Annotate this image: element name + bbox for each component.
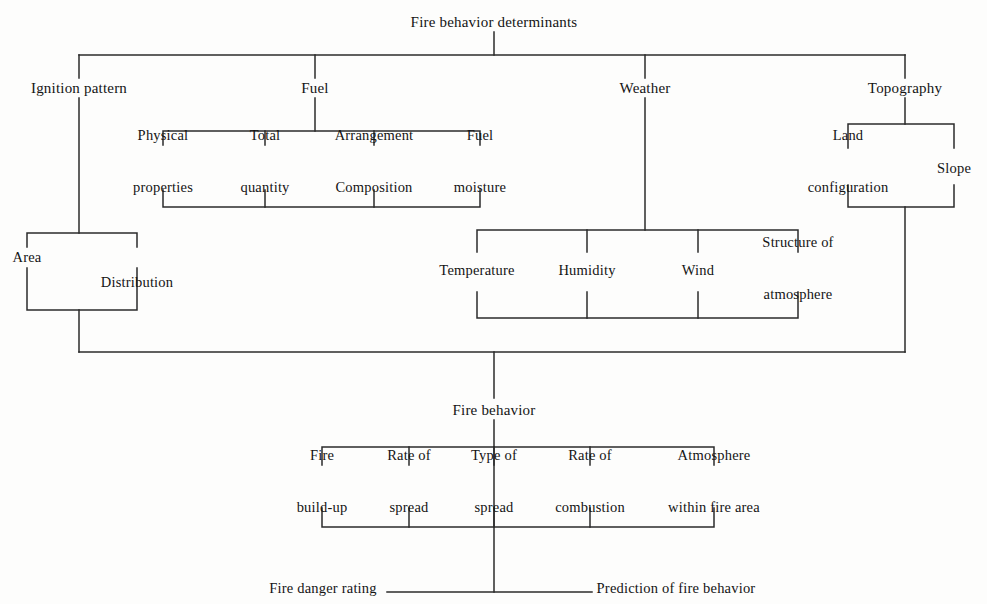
node-temperature[interactable]: Temperature bbox=[439, 262, 514, 278]
node-rate-of-combustion[interactable]: Rate of combustion bbox=[555, 413, 625, 550]
node-fuel-moisture-line1: Fuel bbox=[454, 127, 506, 144]
node-arrangement-composition[interactable]: Arrangement Composition bbox=[335, 93, 414, 230]
node-rate-of-combustion-line1: Rate of bbox=[555, 447, 625, 464]
node-arrangement-composition-line2: Composition bbox=[335, 178, 414, 195]
node-fuel[interactable]: Fuel bbox=[301, 80, 328, 97]
node-structure-of-atmosphere-line2: atmosphere bbox=[762, 285, 833, 302]
node-wind[interactable]: Wind bbox=[682, 262, 714, 278]
node-slope[interactable]: Slope bbox=[937, 160, 971, 176]
node-total-quantity-line1: Total bbox=[240, 127, 289, 144]
node-rate-of-combustion-line2: combustion bbox=[555, 498, 625, 515]
node-structure-of-atmosphere-line1: Structure of bbox=[762, 234, 833, 251]
node-total-quantity[interactable]: Total quantity bbox=[240, 93, 289, 230]
node-type-of-spread[interactable]: Type of spread bbox=[471, 413, 517, 550]
edge-weather-bracket-bottom bbox=[477, 292, 798, 318]
node-type-of-spread-line2: spread bbox=[471, 498, 517, 515]
edge-fuel-bracket-top bbox=[163, 131, 480, 145]
node-area[interactable]: Area bbox=[13, 249, 42, 265]
node-rate-of-spread[interactable]: Rate of spread bbox=[387, 413, 431, 550]
node-rate-of-spread-line1: Rate of bbox=[387, 447, 431, 464]
node-prediction-of-fire-behavior[interactable]: Prediction of fire behavior bbox=[597, 580, 756, 596]
node-physical-properties-line1: Physical bbox=[133, 127, 193, 144]
node-fire-danger-rating[interactable]: Fire danger rating bbox=[269, 580, 376, 596]
edge-fuel-bracket-bottom bbox=[163, 190, 480, 207]
node-land-configuration-line2: configuration bbox=[808, 178, 889, 195]
node-total-quantity-line2: quantity bbox=[240, 178, 289, 195]
node-physical-properties[interactable]: Physical properties bbox=[133, 93, 193, 230]
node-weather[interactable]: Weather bbox=[620, 80, 671, 97]
edge-fb-bracket-bottom bbox=[322, 508, 714, 527]
node-atmosphere-within-fire-area[interactable]: Atmosphere within fire area bbox=[668, 413, 760, 550]
node-land-configuration[interactable]: Land configuration bbox=[808, 93, 889, 230]
node-fuel-moisture-line2: moisture bbox=[454, 178, 506, 195]
node-arrangement-composition-line1: Arrangement bbox=[335, 127, 414, 144]
node-distribution[interactable]: Distribution bbox=[101, 274, 174, 290]
node-atmosphere-within-fire-area-line2: within fire area bbox=[668, 498, 760, 515]
node-fuel-moisture[interactable]: Fuel moisture bbox=[454, 93, 506, 230]
node-fire-build-up[interactable]: Fire build-up bbox=[297, 413, 348, 550]
node-fire-build-up-line1: Fire bbox=[297, 447, 348, 464]
edge-ignition-bracket-top bbox=[27, 233, 137, 247]
node-ignition-pattern[interactable]: Ignition pattern bbox=[31, 80, 127, 97]
node-fire-build-up-line2: build-up bbox=[297, 498, 348, 515]
edge-weather-bracket-top bbox=[477, 230, 798, 252]
edge-fb-bracket-top bbox=[322, 447, 714, 465]
node-land-configuration-line1: Land bbox=[808, 127, 889, 144]
fire-behavior-diagram: Fire behavior determinants Ignition patt… bbox=[0, 0, 987, 604]
node-type-of-spread-line1: Type of bbox=[471, 447, 517, 464]
node-atmosphere-within-fire-area-line1: Atmosphere bbox=[668, 447, 760, 464]
node-physical-properties-line2: properties bbox=[133, 178, 193, 195]
diagram-title: Fire behavior determinants bbox=[411, 14, 578, 31]
node-humidity[interactable]: Humidity bbox=[558, 262, 615, 278]
node-rate-of-spread-line2: spread bbox=[387, 498, 431, 515]
